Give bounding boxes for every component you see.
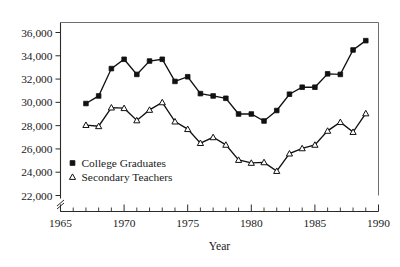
- x-tick-label-1980: 1980: [240, 217, 263, 229]
- legend-label-college-graduates: College Graduates: [82, 157, 167, 169]
- data-point-marker: [84, 101, 89, 106]
- data-point-marker: [363, 38, 368, 43]
- y-tick-label-32000: 32,000: [21, 73, 53, 85]
- data-point-marker: [262, 119, 267, 124]
- data-point-marker: [338, 72, 343, 77]
- data-point-marker: [351, 48, 356, 53]
- data-point-marker: [300, 85, 305, 90]
- data-point-marker: [173, 79, 178, 84]
- legend-label-secondary-teachers: Secondary Teachers: [82, 171, 174, 183]
- data-point-marker: [313, 85, 318, 90]
- y-tick-label-22000: 22,000: [21, 190, 53, 202]
- series-line-0: [86, 41, 366, 121]
- legend-marker-college-graduates: [70, 161, 75, 166]
- y-tick-label-26000: 26,000: [21, 143, 53, 155]
- data-point-marker: [96, 94, 101, 99]
- x-tick-label-1975: 1975: [176, 217, 199, 229]
- data-point-marker: [363, 110, 369, 116]
- data-point-marker: [160, 57, 165, 62]
- x-tick-label-1970: 1970: [113, 217, 136, 229]
- data-point-marker: [198, 91, 203, 96]
- data-point-marker: [146, 107, 152, 113]
- data-point-marker: [223, 142, 229, 148]
- x-tick-label-1985: 1985: [304, 217, 327, 229]
- data-point-marker: [122, 57, 127, 62]
- data-point-marker: [109, 66, 114, 71]
- data-point-marker: [210, 134, 216, 140]
- data-point-marker: [185, 74, 190, 79]
- data-point-marker: [274, 108, 279, 113]
- x-tick-label-1990: 1990: [367, 217, 390, 229]
- data-point-marker: [185, 126, 191, 132]
- y-tick-label-36000: 36,000: [21, 27, 53, 39]
- line-chart: 22,00024,00026,00028,00030,00032,00034,0…: [0, 0, 400, 267]
- y-tick-label-24000: 24,000: [21, 166, 53, 178]
- x-tick-label-1965: 1965: [49, 217, 72, 229]
- data-point-marker: [236, 112, 241, 117]
- data-point-marker: [287, 92, 292, 97]
- data-point-marker: [224, 96, 229, 101]
- y-tick-label-34000: 34,000: [21, 50, 53, 62]
- data-point-marker: [211, 94, 216, 99]
- y-tick-label-28000: 28,000: [21, 120, 53, 132]
- y-tick-label-30000: 30,000: [21, 96, 53, 108]
- legend-marker-secondary-teachers: [69, 174, 75, 180]
- x-axis-title: Year: [209, 240, 231, 253]
- data-point-marker: [147, 59, 152, 64]
- data-point-marker: [159, 99, 165, 105]
- data-point-marker: [325, 72, 330, 77]
- data-point-marker: [337, 119, 343, 125]
- chart-figure: 22,00024,00026,00028,00030,00032,00034,0…: [0, 0, 400, 267]
- data-point-marker: [249, 112, 254, 117]
- data-point-marker: [135, 72, 140, 77]
